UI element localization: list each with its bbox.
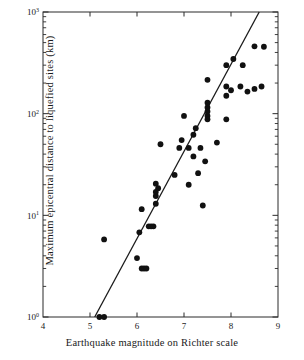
plot-frame: [43, 12, 278, 317]
data-point: [191, 132, 197, 138]
data-point: [195, 170, 201, 176]
data-point: [186, 145, 192, 151]
data-point: [240, 62, 246, 68]
data-point: [136, 229, 142, 235]
data-point: [205, 77, 211, 83]
x-tick-label: 5: [88, 321, 93, 331]
data-point: [193, 125, 199, 131]
x-tick-label: 4: [41, 321, 46, 331]
data-point: [230, 56, 236, 62]
data-point: [181, 113, 187, 119]
y-tick-label: 100: [27, 312, 39, 322]
data-point: [223, 84, 229, 90]
data-point: [139, 206, 145, 212]
data-point: [228, 87, 234, 93]
data-point: [186, 182, 192, 188]
data-point: [179, 137, 185, 143]
y-tick-label: 103: [27, 7, 39, 17]
data-point: [101, 314, 107, 320]
plot-axes: [43, 12, 278, 317]
data-point: [252, 43, 258, 49]
chart-figure: 456789100101102103 Maximum epicentral di…: [0, 0, 304, 360]
x-axis-label: Earthquake magnitude on Richter scale: [0, 337, 304, 348]
data-point: [153, 201, 159, 207]
data-point: [223, 93, 229, 99]
tick-labels: 456789100101102103: [27, 7, 281, 331]
data-point: [245, 89, 251, 95]
x-tick-label: 6: [135, 321, 140, 331]
y-tick-label: 102: [27, 109, 39, 119]
data-point: [223, 116, 229, 122]
data-point: [238, 84, 244, 90]
data-point: [176, 145, 182, 151]
data-point: [158, 141, 164, 147]
data-point: [205, 116, 211, 122]
data-point: [202, 158, 208, 164]
data-point: [214, 140, 220, 146]
x-tick-label: 9: [276, 321, 281, 331]
data-point: [101, 236, 107, 242]
y-axis-label-container: Maximum epicentral distance to liquefied…: [0, 0, 22, 360]
data-point: [252, 86, 258, 92]
data-point: [134, 255, 140, 261]
data-point: [259, 84, 265, 90]
axis-ticks: [43, 12, 278, 317]
data-point: [200, 203, 206, 209]
x-tick-label: 8: [229, 321, 234, 331]
data-points: [97, 43, 267, 320]
data-point: [261, 44, 267, 50]
data-point: [198, 145, 204, 151]
data-point: [223, 62, 229, 68]
data-point: [172, 172, 178, 178]
y-axis-label: Maximum epicentral distance to liquefied…: [44, 1, 55, 301]
data-point: [191, 153, 197, 159]
data-point: [144, 266, 150, 272]
data-point: [151, 223, 157, 229]
x-tick-label: 7: [182, 321, 187, 331]
data-point: [155, 185, 161, 191]
data-point: [205, 100, 211, 106]
y-tick-label: 101: [27, 210, 39, 220]
